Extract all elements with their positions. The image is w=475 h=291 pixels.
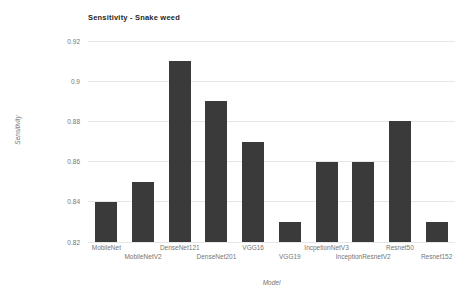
bar-InceptionResnetV2 [352,162,374,242]
x-tick-label: MobileNetV2 [124,253,161,260]
bar-DenseNet121 [169,61,191,242]
bar-VGG16 [242,142,264,243]
x-tick-label: InceptionResnetV2 [336,253,391,260]
x-tick-label: IncpetionNetV3 [304,244,348,251]
bar-Resnet50 [389,121,411,242]
bar-MobileNetV2 [132,182,154,242]
bar-VGG19 [279,222,301,242]
x-tick-label: DenseNet121 [160,244,200,251]
y-tick-label: 0.84 [36,198,80,205]
x-tick-label: VGG16 [242,244,264,251]
x-tick-label: Resnet50 [386,244,414,251]
bar-DenseNet201 [205,101,227,242]
gridline [88,81,455,82]
y-tick-label: 0.86 [36,158,80,165]
bar-MobileNet [95,202,117,242]
bar-IncpetionNetV3 [316,162,338,242]
x-tick-label: DenseNet201 [197,253,237,260]
x-tick-label: VGG19 [279,253,301,260]
gridline [88,41,455,42]
y-tick-label: 0.92 [36,38,80,45]
x-tick-label: MobileNet [92,244,121,251]
x-tick-label: Resnet152 [421,253,452,260]
chart-canvas: Sensitivity - Snake weed Sensitivity Mod… [0,0,475,291]
bar-Resnet152 [426,222,448,242]
y-tick-label: 0.82 [36,239,80,246]
plot-area: 0.820.840.860.880.90.92MobileNetMobileNe… [0,0,475,291]
y-tick-label: 0.88 [36,118,80,125]
y-tick-label: 0.9 [36,78,80,85]
